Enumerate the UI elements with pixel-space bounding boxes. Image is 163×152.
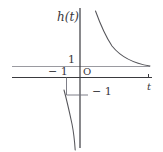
ytick-label-one: 1 (68, 54, 75, 65)
xtick-label-minus-one: − 1 (48, 66, 68, 77)
origin-label: O (83, 67, 91, 77)
t-axis-label: t (147, 82, 151, 92)
curve-left-branch (64, 90, 75, 150)
function-label: h(t) (57, 11, 79, 23)
ytick-label-minus-one: − 1 (92, 86, 112, 97)
curve-right-branch (96, 11, 151, 66)
plot-canvas (0, 0, 163, 152)
graph-figure: h(t) 1 − 1 O − 1 t (0, 0, 163, 152)
